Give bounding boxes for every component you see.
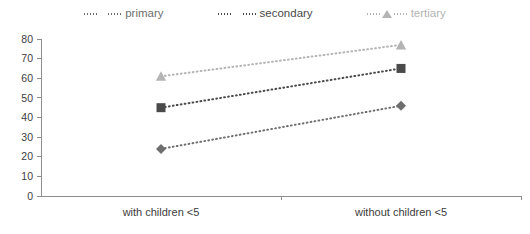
data-point-secondary-1: [397, 64, 406, 73]
chart-legend: primary secondary tertiary: [0, 3, 530, 25]
x-axis: [41, 196, 521, 200]
data-point-primary-1: [396, 101, 406, 111]
y-tick-label-70: 70: [21, 52, 33, 64]
data-point-tertiary-1: [396, 40, 406, 50]
legend-label-primary: primary: [125, 8, 163, 20]
y-tick-label-50: 50: [21, 92, 33, 104]
x-category-label-0: with children <5: [122, 206, 200, 218]
legend-swatch-tertiary: [367, 10, 407, 18]
legend-dash-left-primary: [84, 13, 97, 15]
x-category-label-1: without children <5: [354, 206, 447, 218]
y-tick-label-10: 10: [21, 170, 33, 182]
legend-item-primary: primary: [84, 8, 163, 20]
legend-label-secondary: secondary: [260, 8, 313, 20]
data-point-primary-0: [156, 144, 166, 154]
data-point-secondary-0: [157, 103, 166, 112]
y-tick-label-40: 40: [21, 111, 33, 123]
legend-item-secondary: secondary: [218, 8, 313, 20]
series-line-primary: [161, 106, 401, 149]
legend-dash-right-tertiary: [394, 13, 407, 15]
legend-label-tertiary: tertiary: [411, 8, 446, 20]
legend-swatch-secondary: [218, 10, 256, 18]
y-axis: 01020304050607080: [21, 33, 41, 202]
square-marker-icon: [233, 10, 241, 18]
y-tick-label-20: 20: [21, 150, 33, 162]
triangle-marker-icon: [382, 10, 392, 18]
legend-swatch-primary: [84, 11, 121, 18]
legend-dash-left-tertiary: [367, 13, 380, 15]
series-line-tertiary: [161, 45, 401, 76]
series-tertiary: [156, 40, 406, 81]
legend-dash-right-secondary: [243, 13, 256, 15]
chart-plot-area: 01020304050607080 with children <5withou…: [0, 25, 530, 234]
y-tick-label-30: 30: [21, 131, 33, 143]
series-primary: [156, 101, 406, 154]
series-line-secondary: [161, 68, 401, 107]
legend-dash-right-primary: [108, 13, 121, 15]
y-tick-label-0: 0: [27, 190, 33, 202]
diamond-marker-icon: [98, 9, 108, 19]
x-category-labels: with children <5without children <5: [122, 206, 447, 218]
legend-item-tertiary: tertiary: [367, 8, 446, 20]
line-chart-svg: 01020304050607080 with children <5withou…: [0, 25, 530, 234]
y-tick-label-80: 80: [21, 33, 33, 45]
y-tick-label-60: 60: [21, 72, 33, 84]
legend-dash-left-secondary: [218, 13, 231, 15]
chart-series-group: [156, 40, 406, 154]
